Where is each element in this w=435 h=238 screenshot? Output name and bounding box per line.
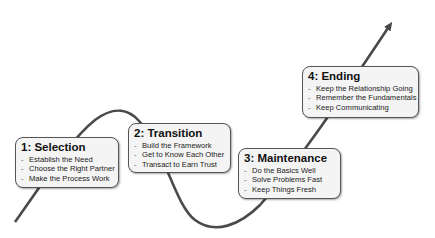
stage-items: -Establish the Need -Choose the Right Pa… [21,155,113,183]
stage-item: -Get to Know Each Other [134,150,225,159]
stage-title: 1: Selection [21,141,113,154]
stage-item: -Establish the Need [21,155,113,164]
stage-item: -Solve Problems Fast [244,175,335,184]
stage-item: -Choose the Right Partner [21,164,113,173]
stage-items: -Do the Basics Well -Solve Problems Fast… [244,166,335,194]
stage-item: -Keep Communicating [308,103,413,112]
stage-title: 4: Ending [308,70,413,83]
lifecycle-curve-arrow [0,0,435,238]
stage-title: 3: Maintenance [244,152,335,165]
stage-item: -Keep Things Fresh [244,185,335,194]
stage-title: 2: Transition [134,127,225,140]
stage-items: -Keep the Relationship Going -Remember t… [308,84,413,112]
stage-item: -Transact to Earn Trust [134,160,225,169]
stage-item: -Remember the Fundamentals [308,93,413,102]
stage-item: -Make the Process Work [21,174,113,183]
stage-item: -Do the Basics Well [244,166,335,175]
stage-box-selection: 1: Selection -Establish the Need -Choose… [15,137,119,188]
stage-item: -Build the Framework [134,141,225,150]
stage-box-transition: 2: Transition -Build the Framework -Get … [128,123,231,173]
stage-item: -Keep the Relationship Going [308,84,413,93]
stage-box-maintenance: 3: Maintenance -Do the Basics Well -Solv… [238,148,341,199]
stage-items: -Build the Framework -Get to Know Each O… [134,141,225,169]
stage-box-ending: 4: Ending -Keep the Relationship Going -… [302,66,419,118]
